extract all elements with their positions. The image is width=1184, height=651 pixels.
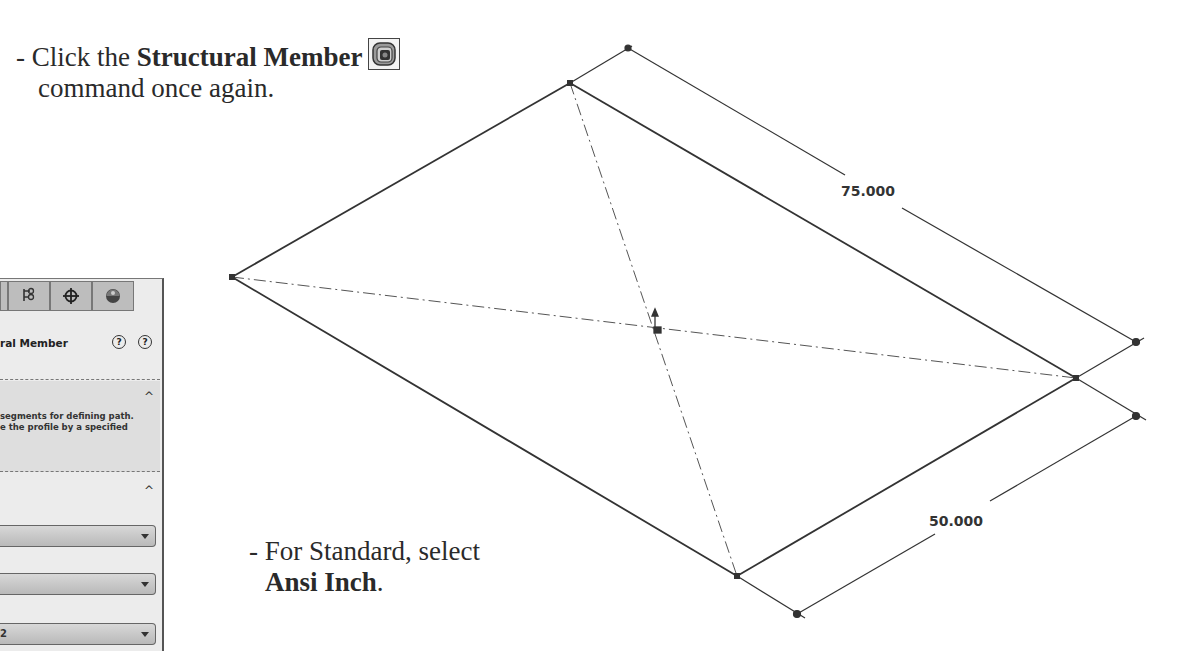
dimension-label-50[interactable]: 50.000 — [928, 513, 984, 529]
collapse-icon[interactable]: ^ — [144, 393, 152, 401]
help-icon[interactable]: ? — [138, 335, 152, 349]
dropdown-arrow-icon — [141, 632, 149, 637]
display-manager-icon — [104, 287, 122, 305]
pm-title: ral Member — [0, 337, 68, 349]
dropdown-arrow-icon — [141, 582, 149, 587]
dimension-50[interactable] — [737, 378, 1146, 618]
selections-section: ^ 2 — [0, 473, 160, 651]
message-text: segments for defining path. e the profil… — [0, 411, 134, 433]
size-dropdown[interactable]: 2 — [0, 623, 156, 645]
structural-member-property-manager: ral Member ? ? ^ segments for defining p… — [0, 278, 164, 651]
dimension-label-75[interactable]: 75.000 — [840, 183, 896, 199]
collapse-icon[interactable]: ^ — [144, 487, 152, 495]
origin-icon — [652, 309, 661, 333]
dropdown-value: 2 — [0, 628, 7, 639]
standard-dropdown[interactable] — [0, 525, 156, 547]
dropdown-arrow-icon — [141, 534, 149, 539]
configuration-manager-tab[interactable] — [8, 281, 50, 311]
pm-header: ral Member ? ? — [0, 317, 160, 380]
crosshair-icon — [62, 287, 80, 305]
type-dropdown[interactable] — [0, 573, 156, 595]
display-manager-tab[interactable] — [92, 281, 134, 311]
message-line-1: segments for defining path. — [0, 411, 134, 422]
feature-manager-tab[interactable] — [0, 281, 8, 311]
configuration-icon — [21, 287, 37, 305]
message-section: ^ segments for defining path. e the prof… — [0, 381, 160, 472]
manager-tabs — [0, 281, 136, 311]
message-line-2: e the profile by a specified — [0, 422, 134, 433]
detailed-help-icon[interactable]: ? — [112, 335, 126, 349]
dimxpert-tab[interactable] — [50, 281, 92, 311]
